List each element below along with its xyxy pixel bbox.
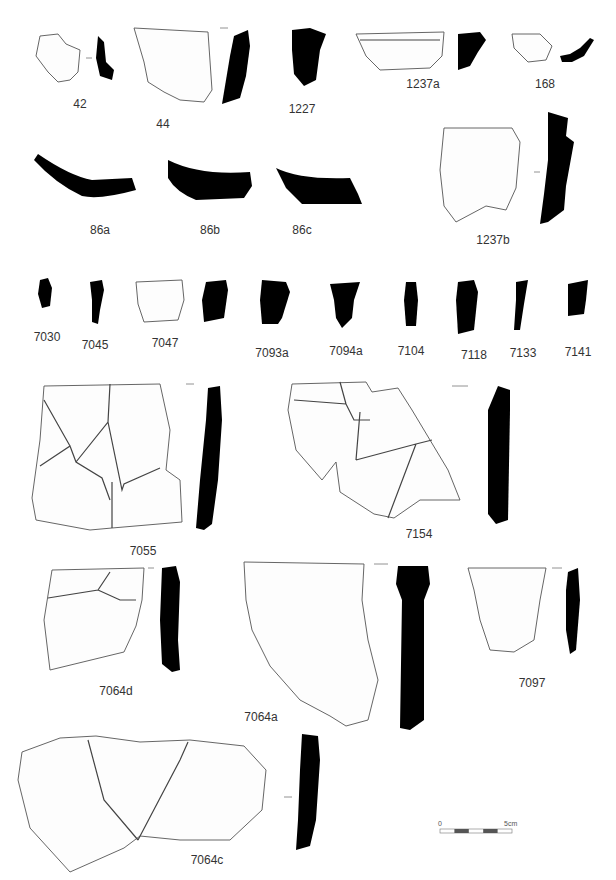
sherd-1237a-exterior xyxy=(356,32,444,70)
sherd-label-7064c: 7064c xyxy=(191,853,224,867)
sherd-7104-profile xyxy=(404,282,418,326)
sherd-7064d-profile xyxy=(160,566,180,672)
scale-bar-start-label: 0 xyxy=(438,820,442,827)
sherd-7055-profile xyxy=(196,386,222,530)
scale-bar xyxy=(440,829,512,833)
sherd-label-1237a: 1237a xyxy=(406,77,439,91)
sherd-7093a-profile xyxy=(260,280,290,324)
sherd-1237b-profile xyxy=(540,112,574,224)
sherd-7094a-profile xyxy=(330,282,360,328)
sherd-label-1237b: 1237b xyxy=(476,233,509,247)
sherd-label-7141: 7141 xyxy=(565,345,592,359)
sherd-1237a-profile xyxy=(458,32,486,70)
sherd-7097-profile xyxy=(566,568,580,654)
sherd-label-86a: 86a xyxy=(90,223,110,237)
sherd-1237b-exterior xyxy=(440,128,520,222)
sherd-86c-profile xyxy=(276,168,362,204)
sherd-label-7055: 7055 xyxy=(130,544,157,558)
sherd-7154-profile xyxy=(488,386,510,524)
sherd-86b-profile xyxy=(168,160,252,200)
scale-bar-end-label: 5cm xyxy=(504,820,517,827)
pottery-plate xyxy=(0,0,616,880)
sherd-label-42: 42 xyxy=(73,97,86,111)
sherd-7064a-exterior xyxy=(244,562,378,726)
sherd-label-7064a: 7064a xyxy=(244,710,277,724)
sherd-7055-exterior xyxy=(32,384,182,530)
sherd-label-168: 168 xyxy=(535,77,555,91)
sherd-label-7045: 7045 xyxy=(82,338,109,352)
sherd-label-7097: 7097 xyxy=(519,676,546,690)
sherd-42-profile xyxy=(96,36,114,80)
sherd-7030-profile xyxy=(38,278,52,308)
sherd-label-7118: 7118 xyxy=(461,348,487,362)
sherd-label-7133: 7133 xyxy=(510,346,537,360)
sherd-7133-profile xyxy=(514,280,528,330)
sherd-label-7064d: 7064d xyxy=(99,684,132,698)
sherd-7141-profile xyxy=(568,280,588,316)
sherd-label-44: 44 xyxy=(156,117,169,131)
sherd-7097-exterior xyxy=(468,568,546,652)
sherd-7064a-profile xyxy=(396,566,430,730)
sherd-168-profile xyxy=(560,38,594,62)
sherd-label-1227: 1227 xyxy=(289,102,316,116)
sherd-1227-profile xyxy=(292,28,326,86)
sherd-label-86b: 86b xyxy=(200,223,220,237)
sherd-168-exterior xyxy=(512,34,552,62)
sherd-7064c-exterior xyxy=(18,736,266,872)
sherd-7047-profile xyxy=(202,280,228,322)
sherd-label-86c: 86c xyxy=(292,223,311,237)
sherd-7154-exterior xyxy=(288,382,460,518)
sherd-label-7030: 7030 xyxy=(34,330,61,344)
sherd-label-7094a: 7094a xyxy=(329,344,362,358)
sherd-label-7104: 7104 xyxy=(398,344,425,358)
sherd-7064c-profile xyxy=(296,734,320,850)
sherd-86a-profile xyxy=(34,154,136,197)
sherd-42-exterior xyxy=(36,34,80,82)
sherd-7064d-exterior xyxy=(44,568,144,670)
sherd-7047-exterior xyxy=(136,280,184,322)
sherd-label-7093a: 7093a xyxy=(255,346,288,360)
sherd-label-7047: 7047 xyxy=(152,336,179,350)
sherd-44-profile xyxy=(222,30,250,104)
sherd-7118-profile xyxy=(456,280,478,334)
sherd-label-7154: 7154 xyxy=(406,527,433,541)
sherd-7045-profile xyxy=(90,280,104,324)
sherd-44-exterior xyxy=(134,28,212,102)
